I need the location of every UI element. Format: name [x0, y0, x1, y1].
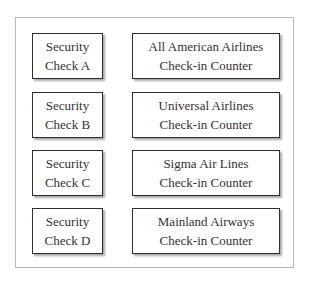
- box-label: Security: [46, 37, 89, 56]
- box-label: Check-in Counter: [160, 231, 253, 250]
- security-check-c-box: Security Check C: [32, 150, 103, 196]
- sigma-air-lines-counter-box: Sigma Air Lines Check-in Counter: [132, 150, 280, 196]
- box-label: Check D: [45, 231, 91, 250]
- box-label: Security: [46, 154, 89, 173]
- box-label: Security: [46, 96, 89, 115]
- box-label: Check-in Counter: [160, 115, 253, 134]
- box-label: Mainland Airways: [158, 212, 254, 231]
- box-label: Universal Airlines: [159, 96, 254, 115]
- security-check-d-box: Security Check D: [32, 208, 103, 254]
- all-american-airlines-counter-box: All American Airlines Check-in Counter: [132, 33, 280, 79]
- box-label: Check C: [45, 173, 90, 192]
- box-label: Check B: [45, 115, 90, 134]
- box-label: Check-in Counter: [160, 56, 253, 75]
- box-label: Check-in Counter: [160, 173, 253, 192]
- box-label: Check A: [45, 56, 90, 75]
- box-label: Security: [46, 212, 89, 231]
- universal-airlines-counter-box: Universal Airlines Check-in Counter: [132, 92, 280, 138]
- mainland-airways-counter-box: Mainland Airways Check-in Counter: [132, 208, 280, 254]
- box-label: All American Airlines: [149, 37, 264, 56]
- box-label: Sigma Air Lines: [163, 154, 248, 173]
- security-check-b-box: Security Check B: [32, 92, 103, 138]
- security-check-a-box: Security Check A: [32, 33, 103, 79]
